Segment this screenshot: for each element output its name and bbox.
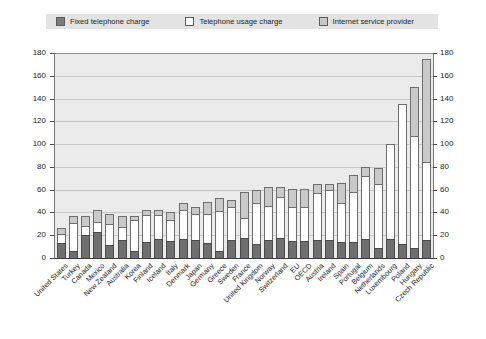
x-tick-label-spain: Spain xyxy=(331,262,349,280)
bar-segment-usage xyxy=(130,220,139,251)
bar-segment-isp xyxy=(81,216,90,226)
bar-segment-usage xyxy=(337,203,346,242)
x-tick-label-czech-republic: Czech Republic xyxy=(394,262,435,303)
legend-label-usage: Telephone usage charge xyxy=(199,18,282,26)
bar-segment-usage xyxy=(374,184,383,248)
y-tick-label-left-100: 100 xyxy=(0,140,46,148)
y-tick-mark-right-80 xyxy=(433,167,437,168)
bar-segment-isp xyxy=(337,183,346,204)
y-tick-mark-right-120 xyxy=(433,121,437,122)
x-tick-label-norway: Norway xyxy=(254,262,277,285)
x-tick-label-iceland: Iceland xyxy=(145,262,167,284)
y-tick-label-right-100: 100 xyxy=(440,140,453,148)
bar-segment-fixed xyxy=(300,241,309,258)
bar-sweden xyxy=(227,200,236,258)
legend-swatch-icon-isp xyxy=(319,17,328,26)
y-tick-label-left-40: 40 xyxy=(0,208,46,216)
y-tick-mark-right-40 xyxy=(433,212,437,213)
bar-segment-fixed xyxy=(422,240,431,258)
y-tick-mark-left-20 xyxy=(50,235,54,236)
x-tick-label-luxembourg: Luxembourg xyxy=(365,262,399,296)
bar-segment-fixed xyxy=(215,251,224,258)
x-tick-label-finland: Finland xyxy=(133,262,155,284)
bar-segment-isp xyxy=(166,212,175,220)
bar-segment-usage xyxy=(361,176,370,239)
bar-segment-isp xyxy=(300,189,309,207)
bar-segment-usage xyxy=(154,215,163,239)
bar-norway xyxy=(264,187,273,258)
bar-segment-fixed xyxy=(386,239,395,258)
bar-segment-usage xyxy=(422,162,431,239)
plot-area xyxy=(54,53,434,259)
x-tick-label-japan: Japan xyxy=(184,262,203,281)
bar-segment-fixed xyxy=(191,240,200,258)
bar-segment-fixed xyxy=(166,241,175,258)
bar-eu xyxy=(288,189,297,258)
x-tick-label-greece: Greece xyxy=(206,262,228,284)
bar-segment-isp xyxy=(288,189,297,207)
bar-segment-fixed xyxy=(398,244,407,258)
bar-segment-fixed xyxy=(276,238,285,259)
bar-segment-isp xyxy=(361,167,370,176)
y-tick-label-left-120: 120 xyxy=(0,117,46,125)
x-tick-label-canada: Canada xyxy=(70,262,93,285)
legend-swatch-icon-usage xyxy=(185,17,194,26)
bar-japan xyxy=(191,207,200,258)
y-tick-label-right-140: 140 xyxy=(440,95,453,103)
x-tick-label-italy: Italy xyxy=(164,262,179,277)
x-tick-label-ireland: Ireland xyxy=(317,262,338,283)
bar-finland xyxy=(142,210,151,258)
x-tick-label-united-states: United States xyxy=(33,262,69,298)
bar-segment-usage xyxy=(93,222,102,232)
bar-segment-usage xyxy=(179,210,188,238)
bar-segment-isp xyxy=(374,168,383,184)
bar-segment-fixed xyxy=(154,239,163,258)
x-tick-label-denmark: Denmark xyxy=(165,262,191,288)
y-tick-mark-left-0 xyxy=(50,258,54,259)
bar-portugal xyxy=(349,175,358,258)
bar-segment-fixed xyxy=(337,242,346,258)
y-tick-mark-right-0 xyxy=(433,258,437,259)
bar-segment-usage xyxy=(240,218,249,237)
bar-segment-isp xyxy=(191,207,200,214)
bar-segment-isp xyxy=(240,192,249,218)
bar-segment-fixed xyxy=(57,243,66,258)
y-tick-mark-left-40 xyxy=(50,212,54,213)
y-tick-mark-right-20 xyxy=(433,235,437,236)
bar-segment-isp xyxy=(118,216,127,227)
y-tick-mark-left-180 xyxy=(50,53,54,54)
y-tick-mark-left-60 xyxy=(50,190,54,191)
bar-segment-fixed xyxy=(227,240,236,258)
bar-segment-isp xyxy=(313,184,322,193)
bar-segment-usage xyxy=(118,227,127,240)
bar-segment-fixed xyxy=(325,240,334,258)
y-tick-label-left-180: 180 xyxy=(0,49,46,57)
bar-segment-usage xyxy=(215,211,224,251)
legend-item-internet-service-provider: Internet service provider xyxy=(319,14,414,29)
y-tick-mark-left-140 xyxy=(50,99,54,100)
bar-segment-usage xyxy=(105,224,114,246)
bar-australia xyxy=(118,216,127,258)
x-tick-label-portugal: Portugal xyxy=(338,262,362,286)
bar-segment-usage xyxy=(386,144,395,239)
bar-segment-isp xyxy=(215,198,224,212)
legend-item-telephone-usage-charge: Telephone usage charge xyxy=(185,14,282,29)
y-tick-label-left-20: 20 xyxy=(0,231,46,239)
bar-switzerland xyxy=(276,187,285,258)
x-tick-label-mexico: Mexico xyxy=(84,262,106,284)
bar-segment-fixed xyxy=(69,251,78,258)
bar-czech-republic xyxy=(422,59,431,258)
bar-segment-fixed xyxy=(374,248,383,258)
x-tick-label-korea: Korea xyxy=(123,262,142,281)
y-tick-label-left-160: 160 xyxy=(0,72,46,80)
bar-segment-isp xyxy=(422,59,431,163)
bar-segment-usage xyxy=(203,214,212,244)
bar-segment-usage xyxy=(288,207,297,241)
x-tick-label-france: France xyxy=(231,262,252,283)
bar-segment-usage xyxy=(81,226,90,235)
bar-segment-usage xyxy=(349,192,358,242)
x-tick-label-austria: Austria xyxy=(304,262,325,283)
bar-segment-usage xyxy=(57,234,66,243)
bar-segment-usage xyxy=(325,190,334,240)
bar-segment-fixed xyxy=(130,251,139,258)
